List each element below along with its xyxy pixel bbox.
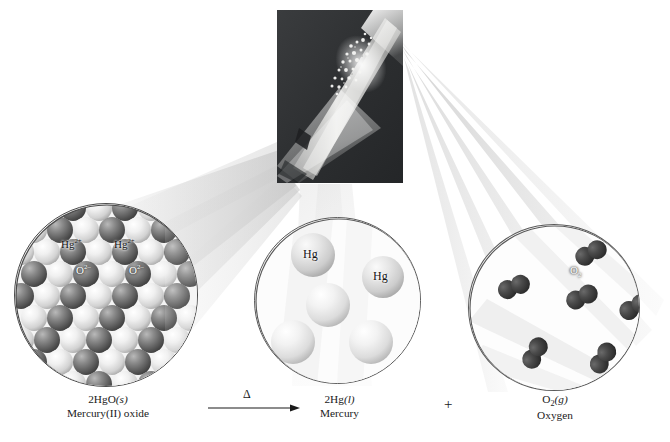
- caption-oxygen-name: Oxygen: [480, 409, 630, 423]
- magnified-view-mercury: Hg Hg: [254, 217, 421, 384]
- caption-reactant: 2HgO(s) Mercury(II) oxide: [8, 393, 208, 421]
- oxygen-molecules-svg: [469, 225, 640, 391]
- mercury-atoms-svg: [255, 218, 421, 384]
- reaction-photograph: [277, 10, 403, 183]
- delta-heat-symbol: Δ: [243, 387, 251, 402]
- caption-reactant-name: Mercury(II) oxide: [8, 407, 208, 421]
- caption-mercury-formula: 2Hg(l): [262, 393, 417, 407]
- caption-product-mercury: 2Hg(l) Mercury: [262, 393, 417, 421]
- plus-sign: +: [444, 396, 452, 413]
- figure-canvas: Hg2+ Hg2+ O2– O2–: [0, 0, 670, 442]
- caption-oxygen-formula: O2(g): [480, 393, 630, 409]
- magnified-view-mercury-oxide: Hg2+ Hg2+ O2– O2–: [14, 203, 198, 387]
- caption-product-oxygen: O2(g) Oxygen: [480, 393, 630, 423]
- oxide-lattice-svg: [15, 204, 198, 387]
- caption-mercury-name: Mercury: [262, 407, 417, 421]
- caption-reactant-formula: 2HgO(s): [8, 393, 208, 407]
- photo-content: [277, 10, 403, 183]
- magnified-view-oxygen: O2: [468, 224, 640, 391]
